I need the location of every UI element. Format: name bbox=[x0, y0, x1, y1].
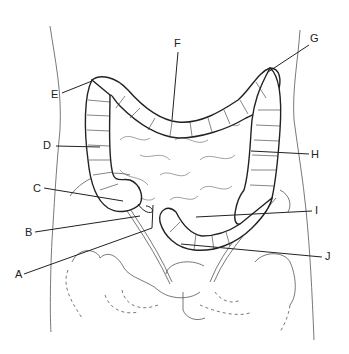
label-c: C bbox=[33, 183, 41, 194]
pointer-G bbox=[268, 45, 309, 72]
colon-diagram: A B C D E F G H I J bbox=[0, 0, 349, 354]
label-b: B bbox=[25, 227, 32, 238]
label-h: H bbox=[311, 149, 319, 160]
anatomy-illustration bbox=[0, 0, 349, 354]
label-e: E bbox=[51, 89, 58, 100]
label-g: G bbox=[310, 33, 319, 44]
label-f: F bbox=[174, 38, 181, 49]
label-i: I bbox=[315, 205, 318, 216]
label-j: J bbox=[325, 251, 331, 262]
pointer-A bbox=[24, 205, 153, 274]
label-a: A bbox=[15, 269, 22, 280]
colon bbox=[85, 68, 280, 250]
label-d: D bbox=[43, 140, 51, 151]
pointer-B bbox=[35, 216, 140, 232]
pointer-F bbox=[172, 52, 178, 120]
